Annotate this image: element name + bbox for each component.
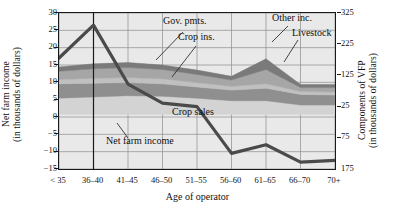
x-tick-label: 70+ [312, 176, 356, 185]
y-tick-label-right: 75 [341, 132, 367, 141]
y-tick-mark-right [337, 74, 341, 75]
annotation-crop-sales: Crop sales [172, 107, 214, 117]
y-tick-mark-left [54, 12, 58, 13]
annotation-net-farm-income: Net farm income [106, 136, 174, 146]
y-tick-mark-right [337, 12, 341, 13]
annotation-livestock: Livestock [292, 28, 331, 38]
y-tick-mark-left [54, 64, 58, 65]
y-tick-label-right: 225 [341, 39, 367, 48]
y-tick-mark-left [54, 116, 58, 117]
y-tick-mark-right [337, 137, 341, 138]
chart-root: Net farm income (in thousands of dollars… [0, 0, 395, 211]
y-tick-mark-right [337, 43, 341, 44]
y-axis-title-left: Net farm income (in thousands of dollars… [1, 14, 23, 174]
y-tick-mark-left [54, 81, 58, 82]
y-tick-label-right: 25 [341, 101, 367, 110]
y-tick-mark-left [54, 168, 58, 169]
y-tick-label-right: 175 [341, 164, 367, 173]
x-axis-title: Age of operator [0, 191, 395, 202]
y-tick-mark-left [54, 151, 58, 152]
y-tick-mark-right [337, 106, 341, 107]
y-tick-mark-left [54, 133, 58, 134]
annotation-gov-pmts: Gov. pmts. [163, 16, 207, 26]
y-tick-mark-left [54, 47, 58, 48]
annotation-other-inc: Other inc. [272, 13, 312, 23]
annotation-crop-ins: Crop ins. [178, 32, 215, 42]
y-tick-mark-left [54, 99, 58, 100]
y-tick-label-right: 325 [341, 8, 367, 17]
y-tick-label-right: 125 [341, 70, 367, 79]
y-tick-mark-left [54, 29, 58, 30]
